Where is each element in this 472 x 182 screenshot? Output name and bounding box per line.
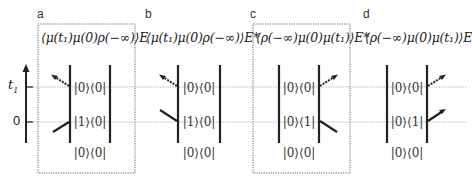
panel-a-formula: ⟨μ(t₁)μ(0)ρ(−∞)⟩E: [41, 30, 148, 45]
panel-b-diagram: [159, 65, 220, 143]
panel-a-ket-t1: |0⟩⟨0|: [74, 81, 107, 95]
panel-label-d: d: [363, 7, 370, 21]
panel-d-ket-initial: |0⟩⟨0|: [391, 146, 424, 160]
panel-a-diagram: [51, 65, 110, 143]
absorption-line: [53, 122, 69, 132]
axis-t1-subscript: 1: [13, 86, 18, 95]
panel-b-formula: ⟨μ(t₁)μ(0)ρ(−∞)⟩E*: [146, 30, 259, 45]
panel-label-a: a: [37, 7, 44, 21]
axis-label-t1: t1: [8, 77, 18, 95]
panel-d-ket-t1: |0⟩⟨0|: [391, 81, 424, 95]
panel-c-ket-zero: |0⟩⟨1|: [283, 115, 316, 129]
emission-arrow: [163, 77, 177, 86]
panel-c-diagram: [279, 65, 338, 143]
panel-d-formula: ⟨ρ(−∞)μ(0)μ(t₁)⟩E: [365, 30, 472, 45]
panel-c-ket-t1: |0⟩⟨0|: [283, 81, 316, 95]
panel-b-ket-zero: |1⟩⟨0|: [183, 115, 216, 129]
panel-a-ket-initial: |0⟩⟨0|: [74, 146, 107, 160]
panel-d-ket-zero: |0⟩⟨1|: [391, 115, 424, 129]
panel-b-ket-t1: |0⟩⟨0|: [183, 81, 216, 95]
panel-c-formula: ⟨ρ(−∞)μ(0)μ(t₁)⟩E*: [256, 30, 369, 45]
time-axis: [23, 64, 34, 143]
panel-b-ket-initial: |0⟩⟨0|: [183, 146, 216, 160]
panel-label-c: c: [250, 7, 256, 21]
emission-arrow: [320, 77, 334, 86]
panel-d-diagram: [387, 65, 446, 143]
absorption-line: [428, 111, 443, 121]
panel-label-b: b: [145, 7, 152, 21]
panel-c-ket-initial: |0⟩⟨0|: [283, 146, 316, 160]
emission-arrow: [428, 77, 442, 86]
panel-a-ket-zero: |1⟩⟨0|: [74, 115, 107, 129]
absorption-line: [160, 110, 177, 121]
axis-label-zero: 0: [13, 113, 20, 128]
absorption-line: [320, 121, 337, 132]
emission-arrow: [55, 77, 69, 86]
